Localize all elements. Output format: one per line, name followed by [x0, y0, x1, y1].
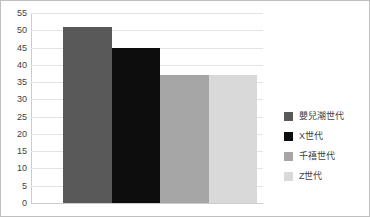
legend-item-label: 千禧世代	[299, 151, 335, 161]
legend-swatch-icon	[284, 172, 293, 181]
y-tick-label: 5	[22, 181, 27, 190]
y-tick-label: 10	[17, 164, 27, 173]
bar[interactable]	[112, 48, 161, 203]
legend-item-label: Z世代	[299, 171, 323, 181]
gridline	[31, 203, 263, 204]
legend-item-label: X世代	[299, 131, 323, 141]
y-tick-label: 0	[22, 199, 27, 208]
legend-item[interactable]: X世代	[284, 126, 368, 146]
legend: 嬰兒潮世代X世代千禧世代Z世代	[284, 106, 368, 186]
legend-swatch-icon	[284, 152, 293, 161]
bar[interactable]	[209, 75, 258, 203]
legend-item[interactable]: 千禧世代	[284, 146, 368, 166]
y-tick-label: 45	[17, 43, 27, 52]
y-tick-label: 35	[17, 78, 27, 87]
bar[interactable]	[160, 75, 209, 203]
bar-series	[31, 13, 263, 203]
y-tick-label: 20	[17, 129, 27, 138]
plot-area	[31, 13, 263, 203]
legend-item-label: 嬰兒潮世代	[299, 111, 344, 121]
y-tick-label: 40	[17, 60, 27, 69]
y-tick-label: 55	[17, 9, 27, 18]
legend-item[interactable]: 嬰兒潮世代	[284, 106, 368, 126]
y-tick-label: 15	[17, 147, 27, 156]
legend-item[interactable]: Z世代	[284, 166, 368, 186]
y-tick-label: 50	[17, 26, 27, 35]
bar[interactable]	[63, 27, 112, 203]
y-tick-label: 30	[17, 95, 27, 104]
y-tick-label: 25	[17, 112, 27, 121]
bar-chart-figure: 0510152025303540455055 嬰兒潮世代X世代千禧世代Z世代	[0, 0, 370, 217]
legend-swatch-icon	[284, 132, 293, 141]
legend-swatch-icon	[284, 112, 293, 121]
y-axis-tick-labels: 0510152025303540455055	[1, 13, 27, 203]
